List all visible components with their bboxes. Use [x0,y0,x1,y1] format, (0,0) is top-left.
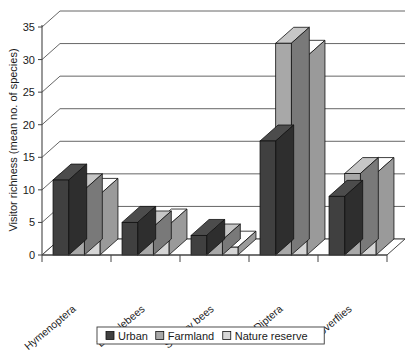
y-axis-title-text: Visitor richness (mean no. of species) [7,48,19,231]
bar-side-face [69,164,87,255]
y-axis-title: Visitor richness (mean no. of species) [7,48,19,231]
legend-item-nature-reserve[interactable]: Nature reserve [223,330,308,342]
legend-item-urban[interactable]: Urban [106,330,148,342]
bar-side-face [276,125,294,255]
y-tick-label: 15 [23,151,35,163]
legend-swatch [106,332,114,340]
chart-canvas: Visitor richness (mean no. of species) 0… [0,0,414,353]
bar-urban-hoverflies [329,180,363,255]
bar-front-face [53,180,69,255]
legend-swatch [223,332,231,340]
bar-front-face [191,235,207,255]
y-tick-label: 35 [23,21,35,33]
bar-urban-hymenoptera [53,164,87,255]
y-tick-label: 30 [23,54,35,66]
legend-label: Farmland [168,330,214,342]
bar-front-face [260,141,276,255]
legend-swatch [156,332,164,340]
y-tick-label: 20 [23,119,35,131]
bar-front-face [329,196,345,255]
legend: UrbanFarmlandNature reserve [97,327,324,344]
y-tick-label: 5 [29,216,35,228]
bar-chart: Visitor richness (mean no. of species) 0… [0,0,414,353]
bar-urban-diptera [260,125,294,255]
y-tick-label: 0 [29,249,35,261]
legend-label: Nature reserve [235,330,308,342]
bar-front-face [122,222,138,255]
y-tick-label: 25 [23,86,35,98]
y-tick-label: 10 [23,184,35,196]
legend-label: Urban [118,330,148,342]
